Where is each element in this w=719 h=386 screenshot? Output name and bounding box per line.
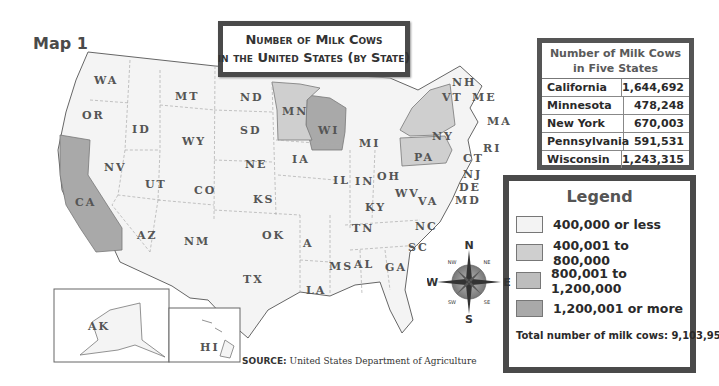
label-nh: NH bbox=[452, 76, 476, 89]
label-or: OR bbox=[82, 109, 105, 122]
table-cell-state: Pennsylvania bbox=[542, 133, 624, 150]
compass-e: E bbox=[503, 276, 511, 289]
table-row: New York670,003 bbox=[542, 115, 689, 133]
label-tn: TN bbox=[352, 222, 374, 235]
source-label: SOURCE: bbox=[242, 356, 287, 366]
legend-label: 800,001 to 1,200,000 bbox=[551, 266, 690, 296]
label-oh: OH bbox=[377, 170, 401, 183]
legend-swatch bbox=[516, 216, 543, 233]
label-il: IL bbox=[333, 174, 350, 187]
table-header-line-2: in Five States bbox=[542, 61, 689, 76]
table-row: Minnesota478,248 bbox=[542, 97, 689, 115]
map-title: Number of Milk Cows in the United States… bbox=[218, 21, 410, 77]
label-mi: MI bbox=[359, 137, 380, 150]
table-cell-value: 478,248 bbox=[624, 97, 689, 114]
label-hi: HI bbox=[200, 341, 220, 354]
label-in: IN bbox=[355, 175, 374, 188]
table-cell-state: Wisconsin bbox=[542, 151, 622, 168]
legend: Legend 400,000 or less 400,001 to 800,00… bbox=[503, 175, 696, 373]
label-ia: IA bbox=[292, 153, 310, 166]
compass-n: N bbox=[464, 240, 473, 252]
compass-ne: NE bbox=[484, 259, 491, 265]
source-note: SOURCE: United States Department of Agri… bbox=[242, 356, 477, 366]
label-va: VA bbox=[417, 195, 438, 208]
label-ga: GA bbox=[385, 261, 407, 274]
label-sc: SC bbox=[408, 241, 429, 254]
table-cell-value: 1,644,692 bbox=[622, 79, 689, 96]
milk-cows-table: Number of Milk Cows in Five States Calif… bbox=[537, 38, 694, 170]
compass-sw: SW bbox=[448, 299, 456, 305]
table-cell-state: Minnesota bbox=[542, 97, 624, 114]
compass-s: S bbox=[465, 313, 473, 324]
label-a: A bbox=[302, 237, 314, 250]
label-ut: UT bbox=[145, 178, 167, 191]
label-ca: CA bbox=[75, 196, 96, 209]
label-wy: WY bbox=[181, 135, 206, 148]
legend-item: 400,001 to 800,000 bbox=[516, 243, 690, 262]
label-ct: CT bbox=[463, 152, 484, 165]
table-header-line-1: Number of Milk Cows bbox=[542, 46, 689, 61]
label-md: MD bbox=[455, 194, 481, 207]
label-pa: PA bbox=[414, 151, 434, 164]
table-row: Pennsylvania591,531 bbox=[542, 133, 689, 151]
legend-item: 400,000 or less bbox=[516, 215, 690, 234]
legend-swatch bbox=[516, 300, 543, 317]
label-vt: VT bbox=[441, 91, 463, 104]
label-az: AZ bbox=[136, 229, 158, 242]
label-wi: WI bbox=[317, 124, 340, 137]
table-row: California1,644,692 bbox=[542, 79, 689, 97]
legend-total: Total number of milk cows: 9,103,959 bbox=[516, 330, 690, 341]
legend-item: 1,200,001 or more bbox=[516, 299, 690, 318]
label-ny: NY bbox=[432, 130, 454, 143]
legend-label: 400,001 to 800,000 bbox=[553, 238, 690, 268]
compass-rose-icon: N S E W NW NE SW SE bbox=[427, 240, 511, 324]
table-cell-value: 591,531 bbox=[624, 133, 689, 150]
label-al: AL bbox=[353, 258, 374, 271]
label-tx: TX bbox=[243, 273, 264, 286]
source-text: United States Department of Agriculture bbox=[290, 356, 477, 366]
label-wv: WV bbox=[394, 187, 420, 200]
label-ms: MS bbox=[329, 260, 353, 273]
label-nj: NJ bbox=[463, 168, 482, 181]
label-ne: NE bbox=[245, 158, 267, 171]
label-nm: NM bbox=[184, 235, 210, 248]
label-ak: AK bbox=[87, 320, 110, 333]
label-me: ME bbox=[472, 91, 497, 104]
legend-label: 1,200,001 or more bbox=[553, 301, 683, 316]
label-la: LA bbox=[306, 284, 326, 297]
label-ri: RI bbox=[483, 142, 501, 155]
label-sd: SD bbox=[240, 124, 261, 137]
label-mt: MT bbox=[175, 90, 199, 103]
label-co: CO bbox=[194, 184, 216, 197]
legend-swatch bbox=[516, 272, 541, 289]
table-cell-value: 1,243,315 bbox=[622, 151, 689, 168]
table-row: Wisconsin1,243,315 bbox=[542, 151, 689, 168]
label-ks: KS bbox=[253, 193, 275, 206]
legend-item: 800,001 to 1,200,000 bbox=[516, 271, 690, 290]
label-ma: MA bbox=[487, 115, 512, 128]
title-line-2: in the United States (by State) bbox=[218, 49, 411, 67]
legend-title: Legend bbox=[509, 187, 690, 206]
table-cell-state: California bbox=[542, 79, 622, 96]
label-nv: NV bbox=[104, 161, 127, 174]
legend-swatch bbox=[516, 244, 543, 261]
label-wa: WA bbox=[93, 74, 118, 87]
label-nd: ND bbox=[240, 91, 264, 104]
label-id: ID bbox=[132, 123, 151, 136]
table-cell-state: New York bbox=[542, 115, 624, 132]
label-ky: KY bbox=[365, 201, 386, 214]
table-header: Number of Milk Cows in Five States bbox=[542, 43, 689, 79]
compass-nw: NW bbox=[448, 259, 457, 265]
table-cell-value: 670,003 bbox=[624, 115, 689, 132]
label-ok: OK bbox=[262, 229, 285, 242]
label-de: DE bbox=[459, 181, 481, 194]
label-nc: NC bbox=[415, 220, 438, 233]
label-mn: MN bbox=[282, 105, 308, 118]
compass-w: W bbox=[427, 276, 438, 289]
title-line-1: Number of Milk Cows bbox=[245, 31, 382, 49]
compass-se: SE bbox=[484, 299, 490, 305]
legend-label: 400,000 or less bbox=[553, 217, 661, 232]
